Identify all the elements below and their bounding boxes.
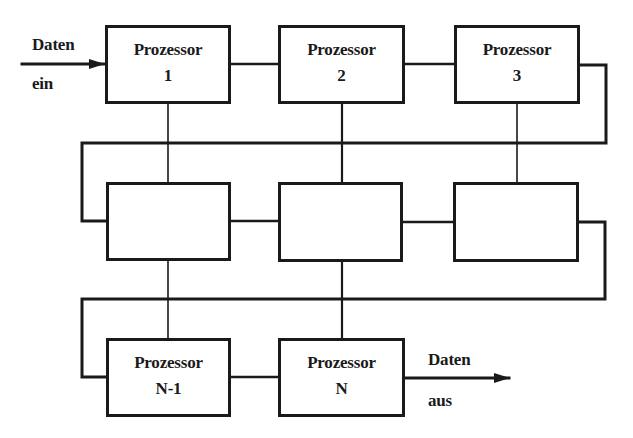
processor-box-1: Prozessor 1 [105,25,231,104]
processor-index: 2 [337,64,345,88]
input-label-bottom: ein [32,74,53,94]
processor-index: N [335,377,347,401]
output-label-bottom: aus [428,391,452,411]
processor-pipeline-diagram: Daten ein Prozessor 1 Prozessor 2 Prozes… [0,0,633,438]
processor-box-n: Prozessor N [278,338,405,417]
processor-box-middle-1 [106,182,231,261]
processor-box-2: Prozessor 2 [278,25,405,104]
processor-box-middle-2 [278,182,403,262]
processor-box-n-minus-1: Prozessor N-1 [106,338,231,417]
processor-box-3: Prozessor 3 [454,25,580,104]
processor-index: 1 [164,64,172,88]
processor-title: Prozessor [134,351,203,375]
processor-title: Prozessor [134,38,203,62]
processor-box-middle-3 [453,182,579,262]
processor-title: Prozessor [307,351,376,375]
output-label-top: Daten [428,350,470,370]
input-label-top: Daten [32,35,74,55]
processor-title: Prozessor [483,38,552,62]
processor-index: 3 [513,64,521,88]
processor-index: N-1 [156,377,182,401]
processor-title: Prozessor [307,38,376,62]
